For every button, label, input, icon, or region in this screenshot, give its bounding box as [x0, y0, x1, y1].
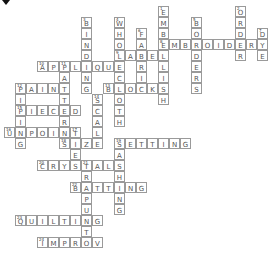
grid-cell[interactable]: 18S: [59, 138, 70, 149]
grid-cell[interactable]: D: [81, 50, 92, 61]
grid-cell[interactable]: D: [235, 28, 246, 39]
grid-cell[interactable]: T: [81, 226, 92, 237]
grid-cell[interactable]: A: [26, 83, 37, 94]
grid-cell[interactable]: N: [125, 182, 136, 193]
grid-cell[interactable]: R: [235, 50, 246, 61]
grid-cell[interactable]: E: [37, 105, 48, 116]
grid-cell[interactable]: N: [114, 193, 125, 204]
grid-cell[interactable]: I: [114, 182, 125, 193]
grid-cell[interactable]: L: [92, 127, 103, 138]
grid-cell[interactable]: R: [81, 171, 92, 182]
grid-cell[interactable]: I: [48, 127, 59, 138]
grid-cell[interactable]: A: [125, 50, 136, 61]
grid-cell[interactable]: I: [213, 39, 224, 50]
grid-cell[interactable]: 7D: [257, 28, 268, 39]
grid-cell[interactable]: 16U: [4, 127, 15, 138]
grid-cell[interactable]: H: [114, 171, 125, 182]
grid-cell[interactable]: T: [147, 138, 158, 149]
grid-cell[interactable]: I: [81, 61, 92, 72]
grid-cell[interactable]: T: [92, 182, 103, 193]
grid-cell[interactable]: H: [114, 28, 125, 39]
grid-cell[interactable]: I: [37, 215, 48, 226]
grid-cell[interactable]: T: [103, 182, 114, 193]
grid-cell[interactable]: M: [169, 39, 180, 50]
grid-cell[interactable]: N: [59, 127, 70, 138]
grid-cell[interactable]: 5B: [191, 17, 202, 28]
grid-cell[interactable]: 1E: [158, 6, 169, 17]
grid-cell[interactable]: L: [70, 61, 81, 72]
grid-cell[interactable]: R: [191, 72, 202, 83]
grid-cell[interactable]: A: [114, 149, 125, 160]
grid-cell[interactable]: D: [224, 39, 235, 50]
grid-cell[interactable]: P: [48, 61, 59, 72]
grid-cell[interactable]: Z: [81, 138, 92, 149]
grid-cell[interactable]: O: [81, 237, 92, 248]
grid-cell[interactable]: G: [15, 138, 26, 149]
grid-cell[interactable]: A: [92, 160, 103, 171]
grid-cell[interactable]: G: [114, 204, 125, 215]
grid-cell[interactable]: S: [158, 83, 169, 94]
grid-cell[interactable]: 10A: [37, 61, 48, 72]
grid-cell[interactable]: A: [81, 182, 92, 193]
grid-cell[interactable]: T: [59, 83, 70, 94]
grid-cell[interactable]: R: [48, 160, 59, 171]
grid-cell[interactable]: I: [26, 105, 37, 116]
grid-cell[interactable]: I: [37, 83, 48, 94]
grid-cell[interactable]: 21T: [81, 160, 92, 171]
grid-cell[interactable]: E: [125, 138, 136, 149]
grid-cell[interactable]: 22B: [70, 182, 81, 193]
grid-cell[interactable]: I: [15, 94, 26, 105]
grid-cell[interactable]: S: [70, 160, 81, 171]
grid-cell[interactable]: G: [81, 83, 92, 94]
grid-cell[interactable]: C: [48, 105, 59, 116]
grid-cell[interactable]: M: [48, 237, 59, 248]
grid-cell[interactable]: I: [81, 28, 92, 39]
grid-cell[interactable]: K: [147, 83, 158, 94]
grid-cell[interactable]: T: [136, 138, 147, 149]
grid-cell[interactable]: 20C: [37, 160, 48, 171]
grid-cell[interactable]: 13B: [103, 83, 114, 94]
grid-cell[interactable]: 8E: [158, 39, 169, 50]
grid-cell[interactable]: T: [59, 215, 70, 226]
grid-cell[interactable]: R: [59, 116, 70, 127]
grid-cell[interactable]: N: [48, 83, 59, 94]
grid-cell[interactable]: R: [136, 61, 147, 72]
grid-cell[interactable]: 6F: [136, 28, 147, 39]
grid-cell[interactable]: U: [103, 61, 114, 72]
grid-cell[interactable]: E: [191, 61, 202, 72]
grid-cell[interactable]: R: [191, 39, 202, 50]
grid-cell[interactable]: 19S: [114, 138, 125, 149]
grid-cell[interactable]: B: [158, 28, 169, 39]
grid-cell[interactable]: E: [92, 138, 103, 149]
grid-cell[interactable]: 14S: [92, 94, 103, 105]
grid-cell[interactable]: G: [136, 182, 147, 193]
grid-cell[interactable]: T: [59, 94, 70, 105]
grid-cell[interactable]: I: [70, 215, 81, 226]
grid-cell[interactable]: G: [92, 215, 103, 226]
grid-cell[interactable]: E: [257, 50, 268, 61]
grid-cell[interactable]: N: [81, 215, 92, 226]
grid-cell[interactable]: 15P: [15, 105, 26, 116]
grid-cell[interactable]: I: [136, 72, 147, 83]
grid-cell[interactable]: O: [37, 127, 48, 138]
grid-cell[interactable]: R: [235, 17, 246, 28]
grid-cell[interactable]: 12P: [15, 83, 26, 94]
grid-cell[interactable]: 24I: [37, 237, 48, 248]
grid-cell[interactable]: P: [59, 237, 70, 248]
grid-cell[interactable]: C: [92, 105, 103, 116]
grid-cell[interactable]: E: [70, 149, 81, 160]
grid-cell[interactable]: Y: [59, 160, 70, 171]
grid-cell[interactable]: L: [48, 215, 59, 226]
grid-cell[interactable]: O: [125, 83, 136, 94]
grid-cell[interactable]: E: [147, 50, 158, 61]
grid-cell[interactable]: Q: [92, 61, 103, 72]
grid-cell[interactable]: D: [70, 105, 81, 116]
grid-cell[interactable]: G: [180, 138, 191, 149]
grid-cell[interactable]: B: [180, 39, 191, 50]
grid-cell[interactable]: P: [81, 193, 92, 204]
grid-cell[interactable]: L: [158, 61, 169, 72]
grid-cell[interactable]: H: [114, 116, 125, 127]
grid-cell[interactable]: D: [191, 50, 202, 61]
grid-cell[interactable]: 4W: [114, 17, 125, 28]
grid-cell[interactable]: I: [158, 72, 169, 83]
